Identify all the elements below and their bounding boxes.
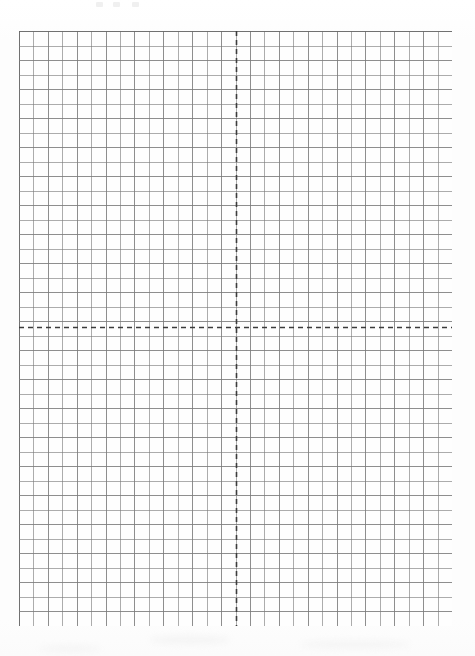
- scan-shadow: [300, 641, 410, 648]
- scan-artifact-mark: [132, 2, 139, 7]
- grid-lines: [19, 31, 452, 626]
- graph-grid: [19, 31, 452, 626]
- scan-artifact-marks: [96, 0, 156, 10]
- graph-paper-page: [0, 0, 475, 656]
- scan-shadow: [40, 646, 100, 652]
- scan-shadow: [150, 636, 230, 644]
- scan-artifact-mark: [96, 2, 103, 7]
- scan-artifact-mark: [113, 2, 120, 7]
